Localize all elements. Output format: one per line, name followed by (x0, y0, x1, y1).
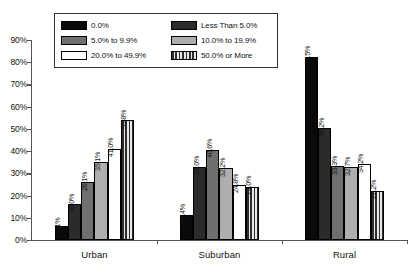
y-axis-tick-label: 40% (11, 147, 27, 156)
y-axis-tick-label: 10% (11, 214, 27, 223)
y-axis-tick-mark (27, 151, 32, 152)
bar: 53.8% (121, 120, 134, 240)
bar: 35.1% (94, 162, 107, 240)
bar-value-label: 24.8% (232, 174, 239, 193)
bar: 26.1% (81, 182, 94, 240)
bar: 41.0% (108, 149, 121, 240)
bar: 50.2% (318, 128, 331, 240)
bar-value-label: 6.1% (54, 218, 61, 234)
bar-chart: 90%80%70%60%50%40%30%20%10%0% 0.0%Less T… (0, 0, 412, 279)
bar: 11.4% (180, 215, 193, 240)
y-axis-tick-mark (27, 40, 32, 41)
y-axis-tick-label: 50% (11, 125, 27, 134)
legend-item: Less Than 5.0% (171, 21, 285, 30)
legend-item: 0.0% (61, 21, 171, 30)
bar: 16.0% (68, 204, 81, 240)
legend-label: Less Than 5.0% (201, 21, 257, 30)
y-axis-tick-label: 30% (11, 169, 27, 178)
y-axis-tick-mark (27, 107, 32, 108)
y-axis-tick-mark (27, 240, 32, 241)
bar-value-label: 24.0% (245, 176, 252, 195)
y-axis-tick-mark (27, 218, 32, 219)
y-axis-tick-label: 0% (15, 236, 27, 245)
bar-value-label: 33.3% (330, 155, 337, 174)
bar-value-label: 35.1% (94, 151, 101, 170)
y-axis: 90%80%70%60%50%40%30%20%10%0% (0, 0, 30, 279)
x-axis-category-label: Urban (81, 250, 107, 260)
x-axis-tick-mark (282, 240, 283, 244)
bar-value-label: 22.2% (370, 180, 377, 199)
bar: 34.2% (358, 164, 371, 240)
bar-value-label: 11.4% (179, 204, 186, 223)
bar: 22.2% (371, 191, 384, 240)
bar-value-label: 53.8% (120, 110, 127, 129)
y-axis-tick-mark (27, 196, 32, 197)
y-axis-tick-mark (27, 84, 32, 85)
bar: 33.3% (331, 166, 344, 240)
y-axis-tick-mark (27, 129, 32, 130)
bar: 33.0% (193, 167, 206, 240)
y-axis-tick-label: 80% (11, 58, 27, 67)
bar-value-label: 32.7% (344, 157, 351, 176)
bar-value-label: 40.6% (205, 139, 212, 158)
bar-value-label: 33.0% (192, 156, 199, 175)
x-axis-category-label: Suburban (198, 250, 240, 260)
bar-group-suburban: 11.4%33.0%40.6%32.2%24.8%24.0% (180, 40, 259, 240)
bar: 82.5% (305, 57, 318, 240)
y-axis-tick-mark (27, 173, 32, 174)
bar-value-label: 34.2% (357, 153, 364, 172)
y-axis-tick-label: 60% (11, 102, 27, 111)
legend-swatch (61, 21, 87, 30)
bar-value-label: 32.2% (219, 158, 226, 177)
bar: 24.0% (246, 187, 259, 240)
bar-value-label: 82.5% (304, 46, 311, 65)
x-axis-tick-mark (407, 240, 408, 244)
legend-label: 0.0% (91, 21, 109, 30)
bar-group-urban: 6.1%16.0%26.1%35.1%41.0%53.8% (55, 40, 134, 240)
bar: 32.7% (344, 167, 357, 240)
x-axis-tick-mark (157, 240, 158, 244)
y-axis-tick-label: 90% (11, 36, 27, 45)
x-axis-category-label: Rural (333, 250, 356, 260)
bar-value-label: 16.0% (67, 194, 74, 213)
y-axis-tick-label: 70% (11, 80, 27, 89)
y-axis-tick-label: 20% (11, 191, 27, 200)
bar-value-label: 50.2% (317, 118, 324, 137)
legend-swatch (171, 21, 197, 30)
bar-value-label: 41.0% (107, 138, 114, 157)
bar-value-label: 26.1% (80, 171, 87, 190)
bar-group-rural: 82.5%50.2%33.3%32.7%34.2%22.2% (305, 40, 384, 240)
y-axis-tick-mark (27, 62, 32, 63)
bar: 6.1% (55, 226, 68, 240)
